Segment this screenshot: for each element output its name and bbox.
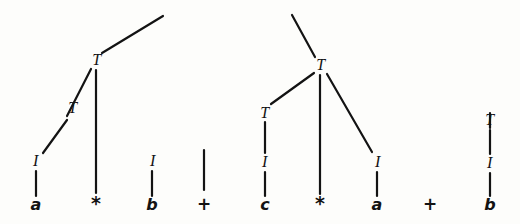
parse-tree-figure: TTIa*Ib+TTIc*Ia+TIb: [0, 0, 520, 224]
tree-node-terminal-n15: a: [372, 197, 383, 213]
tree-edge-tree1-T-to-I: [43, 120, 67, 153]
tree-node-nonterminal-n9: T: [316, 57, 325, 73]
tree-node-nonterminal-n11: I: [262, 154, 268, 170]
tree-edge-tree1-root-up: [102, 16, 163, 53]
tree-node-terminal-n13: *: [315, 194, 325, 213]
tree-node-terminal-n12: c: [260, 197, 269, 213]
tree-node-nonterminal-n1: T: [92, 52, 101, 68]
tree-node-terminal-n16: +: [423, 196, 437, 213]
tree-edge-tree2-root-up: [292, 15, 315, 57]
tree-node-terminal-n5: *: [91, 194, 101, 213]
tree-node-nonterminal-n10: T: [260, 105, 269, 121]
tree-edge-tree2-T-to-T: [271, 73, 314, 104]
tree-node-terminal-n7: b: [146, 197, 157, 213]
tree-node-nonterminal-n3: I: [33, 153, 39, 169]
tree-node-nonterminal-n18: I: [487, 155, 493, 171]
tree-node-nonterminal-n6: I: [150, 153, 156, 169]
tree-node-terminal-n19: b: [484, 197, 495, 213]
tree-node-terminal-n8: +: [197, 196, 211, 213]
tree-edge-tree2-T-to-Iright: [327, 74, 372, 152]
tree-node-nonterminal-n14: I: [375, 154, 381, 170]
tree-node-nonterminal-n2: T: [68, 100, 77, 116]
tree-node-nonterminal-n17: T: [485, 112, 494, 128]
tree-node-terminal-n4: a: [31, 197, 42, 213]
